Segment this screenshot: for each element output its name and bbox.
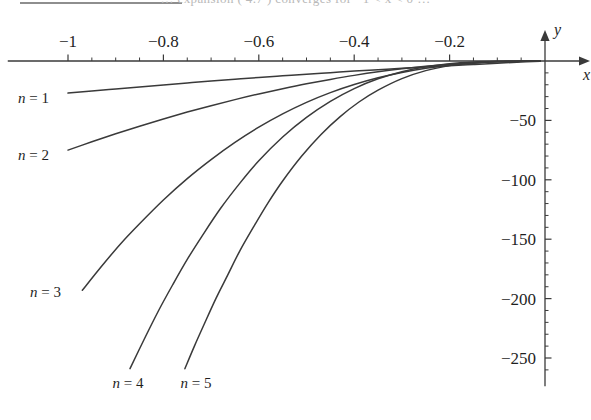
x-axis-arrow [579, 56, 590, 65]
y-axis-name: y [552, 21, 562, 39]
axis-tick-labels-group: −1−0.8−0.6−0.4−0.2−50−100−150−200−250 [59, 32, 536, 368]
y-tick-label: −100 [501, 171, 536, 190]
figure-canvas: … expansion ( 4.7 ) converges for −1 < x… [0, 0, 591, 420]
axes-group [8, 30, 590, 386]
y-axis-arrow [540, 30, 549, 41]
x-tick-label: −1 [59, 32, 77, 51]
plot-area: −1−0.8−0.6−0.4−0.2−50−100−150−200−250 n … [0, 0, 591, 420]
curve-label-n-5: n = 5 [181, 375, 212, 391]
axis-names-group: yx [552, 21, 590, 83]
x-tick-label: −0.2 [434, 32, 465, 51]
curve-n-3 [82, 61, 540, 290]
y-tick-label: −250 [501, 349, 536, 368]
curve-n-4 [130, 61, 540, 369]
curve-n-5 [185, 61, 540, 369]
curve-label-n-4: n = 4 [113, 375, 144, 391]
x-tick-label: −0.6 [243, 32, 274, 51]
curve-n-1 [68, 61, 540, 93]
curves-group [68, 61, 540, 369]
y-tick-label: −200 [501, 290, 536, 309]
curve-label-n-3: n = 3 [30, 284, 61, 300]
curve-label-n-2: n = 2 [18, 147, 49, 163]
x-tick-label: −0.4 [339, 32, 370, 51]
x-axis-name: x [582, 66, 590, 83]
curve-label-n-1: n = 1 [18, 90, 49, 106]
y-tick-label: −150 [501, 230, 536, 249]
axis-ticks-group [68, 55, 552, 370]
x-tick-label: −0.8 [148, 32, 179, 51]
curve-labels-group: n = 1n = 2n = 3n = 4n = 5 [18, 90, 211, 391]
y-tick-label: −50 [509, 111, 536, 130]
